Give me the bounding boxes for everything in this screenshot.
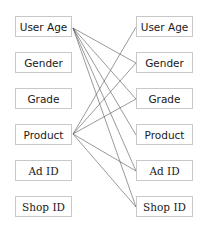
left-node-user-age: User Age — [15, 16, 72, 37]
right-node-shop-id: Shop ID — [136, 196, 193, 217]
left-node-ad-id: Ad ID — [15, 160, 72, 181]
node-label: User Age — [141, 21, 189, 33]
node-label: Gender — [145, 57, 184, 69]
right-node-gender: Gender — [136, 52, 193, 73]
left-node-grade: Grade — [15, 88, 72, 109]
node-label: Ad ID — [149, 165, 179, 177]
edge-userage-gender — [73, 28, 136, 63]
node-label: Gender — [24, 57, 63, 69]
edge-product-adid — [73, 134, 136, 171]
left-node-shop-id: Shop ID — [15, 196, 72, 217]
node-label: User Age — [20, 21, 68, 33]
left-node-product: Product — [15, 124, 72, 145]
right-node-product: Product — [136, 124, 193, 145]
right-node-ad-id: Ad ID — [136, 160, 193, 181]
edge-userage-adid — [73, 28, 136, 171]
right-node-user-age: User Age — [136, 16, 193, 37]
node-label: Grade — [148, 93, 180, 105]
right-node-grade: Grade — [136, 88, 193, 109]
edge-product-gender — [73, 63, 136, 134]
node-label: Ad ID — [28, 165, 58, 177]
node-label: Shop ID — [143, 201, 186, 213]
edge-product-shopid — [73, 134, 136, 207]
edge-product-grade — [73, 99, 136, 134]
edge-userage-grade — [73, 28, 136, 99]
node-label: Product — [145, 129, 185, 141]
node-label: Product — [24, 129, 64, 141]
node-label: Grade — [27, 93, 59, 105]
edge-userage-product — [73, 28, 136, 135]
left-node-gender: Gender — [15, 52, 72, 73]
node-label: Shop ID — [22, 201, 65, 213]
